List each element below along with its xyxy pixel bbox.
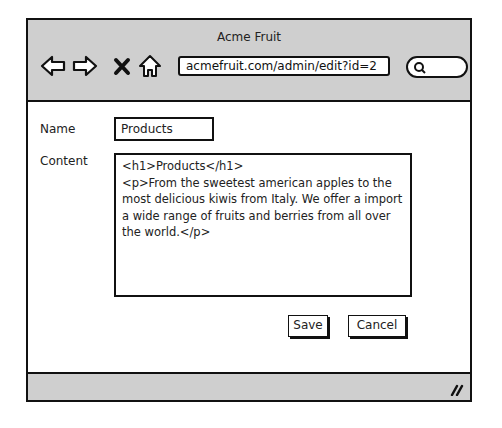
- cancel-button[interactable]: Cancel: [348, 315, 406, 337]
- url-bar[interactable]: acmefruit.com/admin/edit?id=2: [178, 56, 390, 76]
- close-x-icon[interactable]: [112, 54, 132, 78]
- forward-arrow-icon[interactable]: [72, 54, 98, 78]
- content-label: Content: [40, 154, 88, 168]
- home-icon[interactable]: [138, 54, 162, 78]
- search-box[interactable]: [406, 56, 468, 78]
- browser-toolbar: Acme Fruit acmefruit.com/admin/edit?id=2: [28, 20, 470, 102]
- save-button[interactable]: Save: [288, 315, 328, 337]
- search-icon: [413, 61, 427, 75]
- content-textarea[interactable]: <h1>Products</h1> <p>From the sweetest a…: [114, 153, 412, 297]
- window-title: Acme Fruit: [28, 30, 470, 44]
- back-arrow-icon[interactable]: [40, 54, 66, 78]
- resize-grip-icon[interactable]: [450, 384, 464, 396]
- status-bar: [28, 372, 470, 400]
- browser-window: Acme Fruit acmefruit.com/admin/edit?id=2…: [26, 18, 472, 402]
- name-field[interactable]: Products: [114, 117, 214, 141]
- name-label: Name: [40, 122, 75, 136]
